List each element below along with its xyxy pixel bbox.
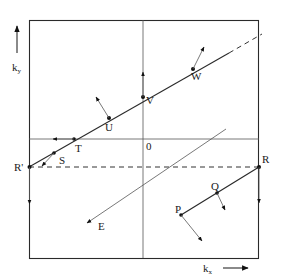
k-space-diagram: R' S T U V W R Q P E 0 ky kx <box>0 0 282 278</box>
kx-label-subscript: x <box>209 268 213 276</box>
label-t: T <box>75 142 82 154</box>
arrow-q <box>217 193 225 210</box>
label-r: R <box>262 153 270 165</box>
arrow-s <box>42 153 54 166</box>
trajectory-line-r-p <box>181 167 259 215</box>
ky-axis-label: ky <box>12 61 22 75</box>
label-v: V <box>146 94 154 106</box>
arrow-p <box>181 215 202 241</box>
label-p: P <box>175 203 181 215</box>
label-u: U <box>105 121 113 133</box>
trajectory-line-e <box>87 129 226 223</box>
label-origin: 0 <box>146 140 152 152</box>
ky-label-subscript: y <box>18 67 22 75</box>
label-w: W <box>191 70 202 82</box>
kx-axis-label: kx <box>203 262 213 276</box>
label-e: E <box>98 220 105 232</box>
arrow-w <box>193 47 204 69</box>
arrow-u <box>96 97 109 118</box>
trajectory-extension-dashed <box>229 34 262 53</box>
label-q: Q <box>211 180 219 192</box>
label-s: S <box>59 154 65 166</box>
label-r-prime: R' <box>14 161 23 173</box>
